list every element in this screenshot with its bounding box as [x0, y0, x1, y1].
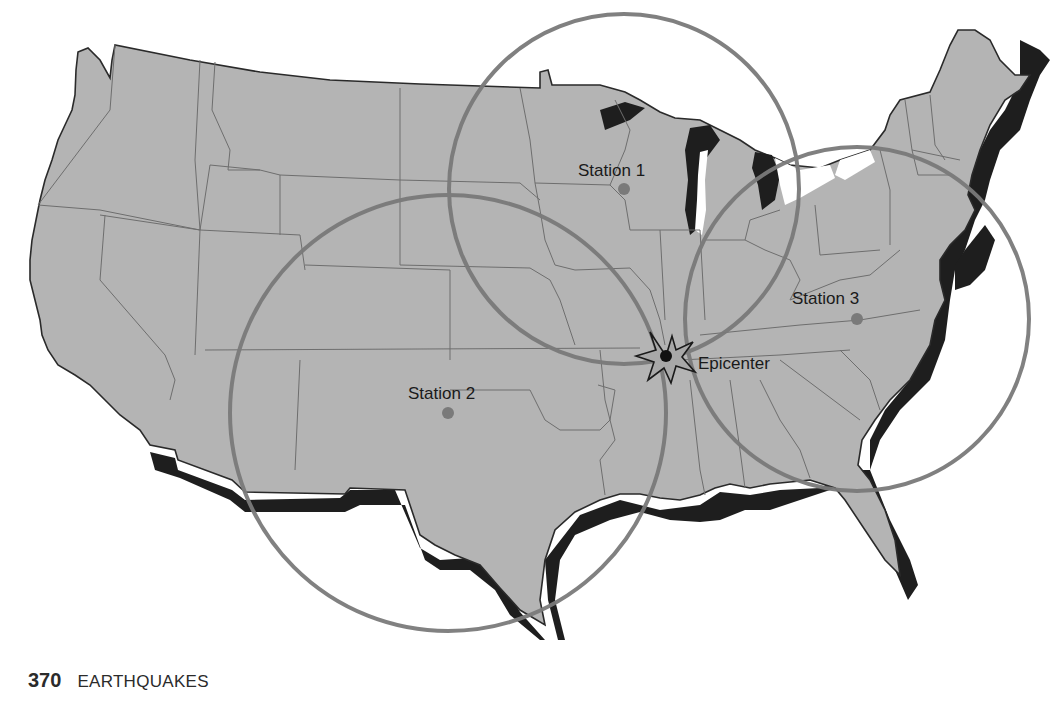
epicenter-dot [660, 350, 672, 362]
station-1-marker[interactable] [618, 183, 630, 195]
page-footer: 370 EARTHQUAKES [28, 669, 209, 692]
section-title: EARTHQUAKES [77, 672, 208, 692]
epicenter-label: Epicenter [698, 354, 770, 373]
page-number: 370 [28, 669, 61, 692]
station-3-marker[interactable] [851, 313, 863, 325]
station-2-label: Station 2 [408, 384, 475, 403]
station-1-label: Station 1 [578, 161, 645, 180]
station-3-label: Station 3 [792, 289, 859, 308]
us-map-figure: Station 1 Station 2 Station 3 Epicenter [0, 0, 1053, 704]
contiguous-us-land [30, 30, 1030, 625]
station-2-marker[interactable] [442, 407, 454, 419]
